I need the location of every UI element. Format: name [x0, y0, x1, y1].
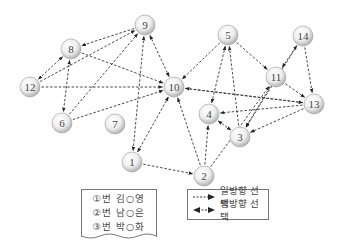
student-name-2: ②번 남○은: [82, 206, 156, 220]
node-11-label: 11: [271, 71, 282, 83]
edge-13-to-3: [251, 109, 304, 133]
student-name-1: ①번 김○영: [82, 192, 156, 206]
node-13: 13: [304, 94, 324, 114]
legend-mutual: 쌍방향 선택: [188, 203, 268, 216]
node-10-label: 10: [169, 81, 181, 93]
node-12: 12: [20, 77, 40, 97]
node-12-label: 12: [25, 81, 36, 93]
student-name-3: ③번 박○화: [82, 220, 156, 234]
edge-2-to-10: [178, 98, 201, 165]
node-1: 1: [122, 152, 142, 172]
edge-3-to-5: [229, 46, 238, 125]
node-5: 5: [218, 25, 238, 45]
edge-9-to-8: [82, 29, 134, 46]
node-4-label: 4: [206, 108, 212, 120]
edge-8-to-12: [38, 57, 62, 79]
edge-11-to-3: [246, 87, 270, 127]
node-4: 4: [199, 104, 219, 124]
node-3: 3: [230, 127, 250, 147]
node-9: 9: [135, 15, 155, 35]
edge-14-to-13: [305, 47, 312, 92]
sociogram: 1234567891011121314: [0, 0, 341, 249]
edge-5-to-11: [237, 43, 268, 70]
node-8: 8: [61, 39, 81, 59]
edge-5-to-10: [182, 43, 219, 79]
one-way-arrow-icon: [192, 193, 216, 201]
edge-4-to-3: [218, 121, 231, 130]
edge-1-to-2: [143, 164, 192, 174]
node-8-label: 8: [68, 43, 74, 55]
edge-10-to-13: [185, 88, 302, 102]
edge-11-to-14: [282, 46, 296, 68]
node-5-label: 5: [225, 29, 231, 41]
edge-10-to-1: [138, 97, 169, 152]
node-6-label: 6: [59, 117, 65, 129]
node-1-label: 1: [129, 156, 135, 168]
edge-13-to-4: [220, 105, 302, 113]
edge-9-to-1: [133, 36, 144, 150]
node-14: 14: [293, 26, 313, 46]
node-14-label: 14: [298, 30, 310, 42]
edge-11-to-13: [285, 84, 304, 98]
node-11: 11: [266, 67, 286, 87]
node-3-label: 3: [237, 131, 243, 143]
two-way-arrow-icon: [192, 206, 216, 214]
edge-9-to-10: [150, 35, 169, 76]
legend-mutual-label: 쌍방향 선택: [220, 197, 268, 223]
node-7: 7: [105, 114, 125, 134]
edge-8-to-10: [82, 53, 163, 83]
edge-5-to-4: [212, 46, 226, 103]
student-names-legend: ①번 김○영 ②번 남○은 ③번 박○화: [81, 189, 157, 237]
node-2-label: 2: [201, 170, 207, 182]
node-6: 6: [52, 113, 72, 133]
node-7-label: 7: [112, 118, 118, 130]
node-13-label: 13: [309, 98, 321, 110]
node-9-label: 9: [142, 19, 148, 31]
edge-2-to-11: [211, 86, 269, 166]
edge-type-legend: 일방향 선택 쌍방향 선택: [187, 189, 269, 220]
edge-2-to-4: [205, 126, 208, 165]
edge-12-to-9: [40, 31, 135, 82]
torn-edge: [81, 233, 157, 241]
node-2: 2: [194, 166, 214, 186]
node-10: 10: [164, 77, 184, 97]
